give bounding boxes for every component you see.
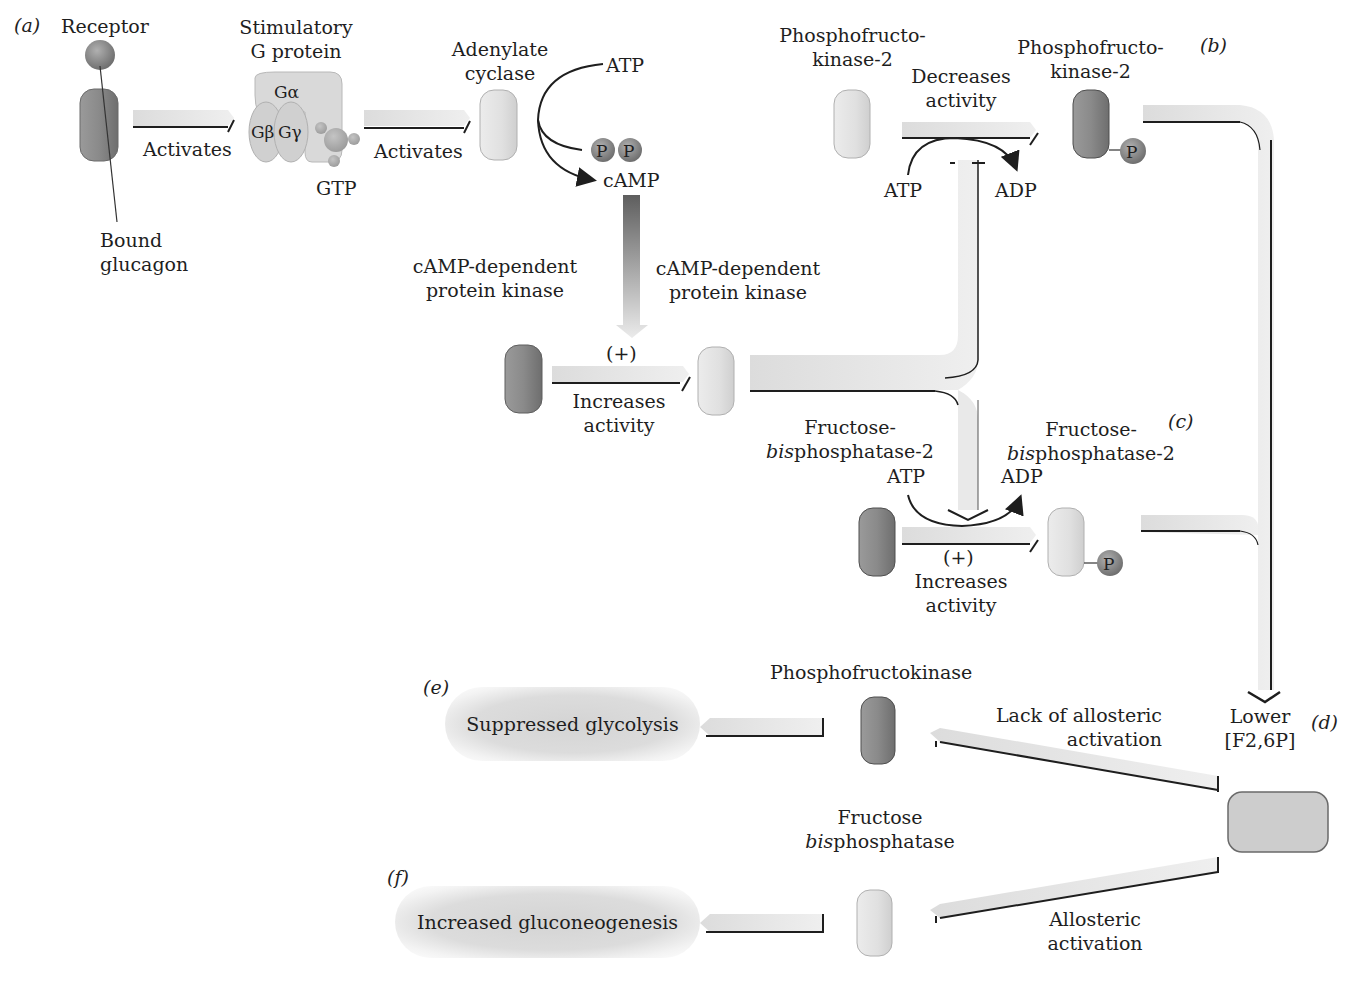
pka-left-label: cAMP-dependent protein kinase (400, 254, 590, 302)
increases-activity-arrow-pka (552, 366, 690, 391)
panel-letter-e: (e) (423, 676, 449, 698)
pfk1-enzyme (861, 697, 895, 764)
receptor (80, 40, 118, 222)
pyrophosphate-p1: P (596, 139, 607, 163)
adenylate-cyclase (480, 90, 517, 160)
bis-prefix: bis (805, 830, 833, 852)
lower-line2: [F2,6P] (1220, 728, 1300, 752)
pfk2-right-line1: Phosphofructo- (1008, 35, 1173, 59)
activates-arrow-2 (364, 110, 470, 133)
increased-gluconeogenesis-text: Increased gluconeogenesis (417, 911, 678, 933)
allosteric-line1: Allosteric (1040, 907, 1150, 931)
suppressed-glycolysis-arrow (700, 718, 823, 737)
fbpase2-left-label: Fructose- bisphosphatase-2 (755, 415, 945, 463)
increases-line1: Increases (902, 569, 1020, 593)
suppressed-glycolysis-outcome: Suppressed glycolysis (445, 687, 700, 761)
pfk2-right-label: Phosphofructo- kinase-2 (1008, 35, 1173, 83)
phosphate-b: P (1126, 140, 1137, 164)
fbpase-line2: bisphosphatase (800, 829, 960, 853)
fbpase2-right-label: Fructose- bisphosphatase-2 (996, 417, 1186, 465)
suppressed-glycolysis-text: Suppressed glycolysis (466, 713, 678, 735)
phosphate-c: P (1103, 552, 1114, 576)
allosteric-activation-label: Allosteric activation (1040, 907, 1150, 955)
gtp-label: GTP (316, 176, 357, 200)
lack-allosteric-label: Lack of allosteric activation (990, 703, 1162, 751)
adenylate-line2: cyclase (440, 61, 560, 85)
panel-letter-d: (d) (1311, 711, 1338, 733)
lack-line2: activation (990, 727, 1162, 751)
pka-branch-connector (750, 160, 988, 520)
adenylate-line1: Adenylate (440, 37, 560, 61)
pfk2-to-lower-f26p-arrow (1143, 105, 1274, 690)
fbpase-label: Fructose bisphosphatase (800, 805, 960, 853)
fbpase2-to-lower-f26p-arrow (1141, 515, 1258, 545)
atp-label-a: ATP (606, 53, 644, 77)
bis-prefix: bis (1007, 442, 1035, 464)
fbpase-line1: Fructose (800, 805, 960, 829)
g-protein-label: Stimulatory G protein (226, 15, 366, 63)
decreases-activity-label: Decreases activity (900, 64, 1022, 112)
fbpase2-right-line2: bisphosphatase-2 (996, 441, 1186, 465)
g-protein-line2: G protein (226, 39, 366, 63)
pka-right-label: cAMP-dependent protein kinase (643, 256, 833, 304)
activates-arrow-1 (133, 110, 234, 132)
g-protein-line1: Stimulatory (226, 15, 366, 39)
pfk2-unphosphorylated (834, 90, 870, 158)
plus-sign-pka: (+) (606, 341, 637, 365)
pka-left-line2: protein kinase (400, 278, 590, 302)
allosteric-line2: activation (1040, 931, 1150, 955)
decreases-line1: Decreases (900, 64, 1022, 88)
increased-gluconeogenesis-outcome: Increased gluconeogenesis (395, 886, 700, 958)
adp-label-c: ADP (1001, 464, 1043, 488)
receptor-label: Receptor (60, 14, 150, 38)
lack-line1: Lack of allosteric (990, 703, 1162, 727)
panel-letter-a: (a) (14, 14, 40, 36)
lower-f26p-arrowhead (1248, 692, 1280, 702)
atp-label-c: ATP (887, 464, 925, 488)
increases-activity-fbpase2-label: Increases activity (902, 569, 1020, 617)
panel-letter-f: (f) (387, 866, 409, 888)
bound-glucagon-line2: glucagon (100, 252, 188, 276)
decreases-line2: activity (900, 88, 1022, 112)
pyrophosphate-p2: P (623, 139, 634, 163)
pka-right-line1: cAMP-dependent (643, 256, 833, 280)
activates-label-1: Activates (143, 137, 232, 161)
f26p-pool (1228, 792, 1328, 852)
adenylate-cyclase-label: Adenylate cyclase (440, 37, 560, 85)
pfk2-left-line1: Phosphofructo- (770, 23, 935, 47)
phosphatase-suffix: phosphatase-2 (1035, 442, 1175, 464)
panel-letter-b: (b) (1200, 34, 1227, 56)
adp-label-b: ADP (995, 178, 1037, 202)
bound-glucagon-label: Bound glucagon (100, 228, 188, 276)
pka-right-line2: protein kinase (643, 280, 833, 304)
g-gamma-label: Gγ (278, 120, 302, 144)
g-alpha-label: Gα (274, 80, 299, 104)
g-beta-label: Gβ (251, 120, 274, 144)
atp-label-b: ATP (884, 178, 922, 202)
phosphatase-suffix: phosphatase-2 (794, 440, 934, 462)
pka-inactive (505, 345, 542, 413)
phosphatase-suffix: phosphatase (833, 830, 954, 852)
fbpase2-right-line1: Fructose- (996, 417, 1186, 441)
lower-line1: Lower (1220, 704, 1300, 728)
fbpase1-enzyme (857, 890, 892, 956)
fbpase2-left-line1: Fructose- (755, 415, 945, 439)
pka-left-line1: cAMP-dependent (400, 254, 590, 278)
pka-active (698, 347, 734, 415)
fbpase2-unphosphorylated (859, 508, 895, 576)
camp-label: cAMP (603, 168, 660, 192)
fbpase2-left-line2: bisphosphatase-2 (755, 439, 945, 463)
pfk-label: Phosphofructokinase (770, 660, 972, 684)
increases-line2: activity (902, 593, 1020, 617)
increases-line2: activity (560, 413, 678, 437)
increases-line1: Increases (560, 389, 678, 413)
pfk2-right-line2: kinase-2 (1008, 59, 1173, 83)
increased-gluconeogenesis-arrow (700, 914, 823, 933)
activates-label-2: Activates (374, 139, 463, 163)
bound-glucagon-line1: Bound (100, 228, 188, 252)
increases-activity-pka-label: Increases activity (560, 389, 678, 437)
bis-prefix: bis (766, 440, 794, 462)
lower-f26p-label: Lower [F2,6P] (1220, 704, 1300, 752)
plus-sign-fbpase2: (+) (943, 545, 974, 569)
